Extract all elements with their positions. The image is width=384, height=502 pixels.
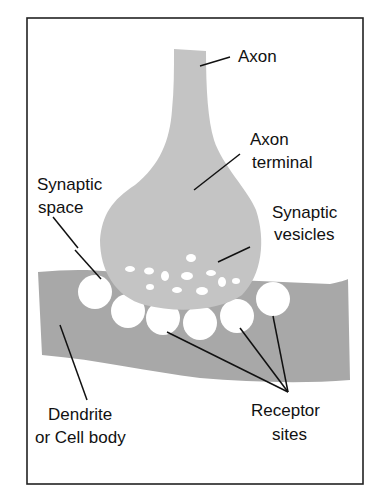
label-synaptic-vesicles-1: Synaptic — [272, 203, 338, 222]
label-receptor-2: sites — [272, 425, 307, 444]
label-receptor-1: Receptor — [251, 401, 320, 420]
label-axon-terminal-2: terminal — [252, 153, 312, 172]
label-axon: Axon — [238, 47, 277, 66]
label-axon-terminal-1: Axon — [250, 130, 289, 149]
label-synaptic-space-2: space — [38, 198, 83, 217]
label-dendrite-2: or Cell body — [35, 428, 126, 447]
synapse-diagram: Axon Axon terminal Synaptic space Synapt… — [0, 0, 384, 502]
label-synaptic-vesicles-2: vesicles — [274, 225, 334, 244]
label-synaptic-space-1: Synaptic — [37, 175, 103, 194]
label-dendrite-1: Dendrite — [48, 405, 112, 424]
